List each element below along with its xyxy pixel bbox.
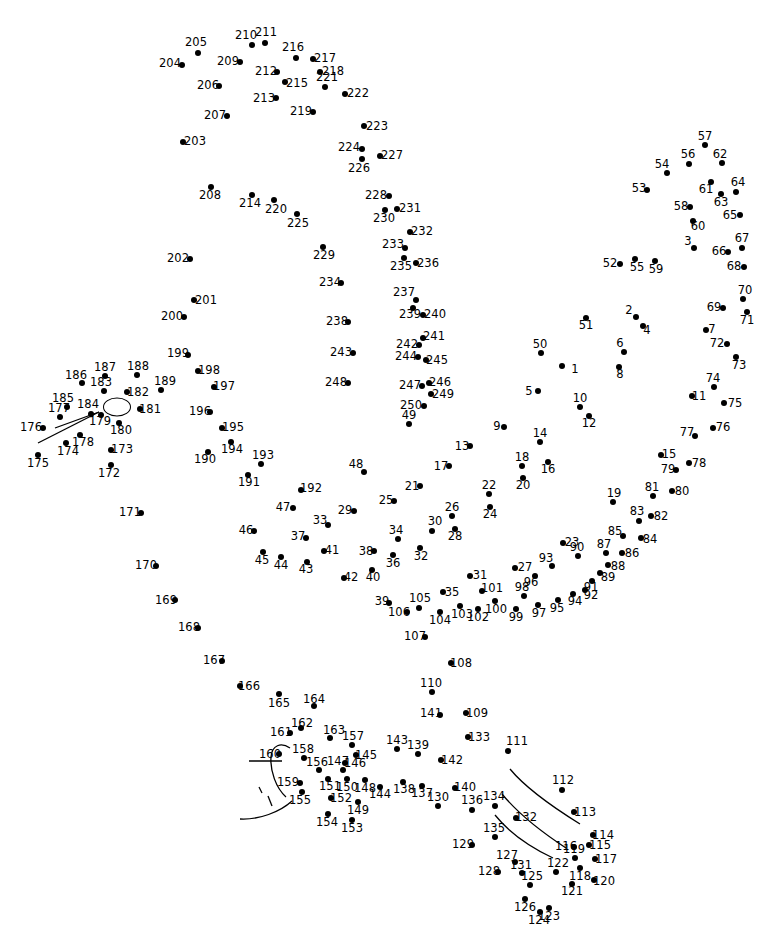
dot-number-label: 140: [454, 782, 476, 794]
dot-number-label: 87: [597, 539, 612, 551]
dot-number-label: 197: [213, 381, 235, 393]
dot-number-label: 155: [289, 795, 311, 807]
puzzle-dot: [322, 84, 328, 90]
dot-number-label: 175: [27, 458, 49, 470]
dot-number-label: 7: [708, 324, 715, 336]
dot-number-label: 95: [550, 603, 565, 615]
dot-number-label: 220: [265, 204, 287, 216]
dot-number-label: 106: [388, 607, 410, 619]
dot-number-label: 55: [630, 262, 645, 274]
dot-number-label: 2: [625, 305, 632, 317]
puzzle-dot: [249, 42, 255, 48]
dot-number-label: 212: [255, 66, 277, 78]
dot-number-label: 52: [603, 258, 618, 270]
dot-number-label: 57: [698, 131, 713, 143]
dot-number-label: 245: [426, 355, 448, 367]
dot-number-label: 198: [198, 365, 220, 377]
dot-number-label: 237: [393, 287, 415, 299]
dot-number-label: 1: [571, 364, 578, 376]
dot-number-label: 26: [445, 502, 460, 514]
dot-number-label: 89: [601, 572, 616, 584]
dot-number-label: 97: [532, 608, 547, 620]
dot-number-label: 115: [589, 840, 611, 852]
dot-number-label: 27: [518, 562, 533, 574]
puzzle-dot: [686, 161, 692, 167]
dot-number-label: 153: [341, 823, 363, 835]
puzzle-dot: [195, 50, 201, 56]
dot-number-label: 85: [608, 526, 623, 538]
dot-number-label: 168: [178, 622, 200, 634]
dot-number-label: 222: [347, 88, 369, 100]
dot-number-label: 143: [386, 735, 408, 747]
dot-number-label: 43: [299, 564, 314, 576]
dot-number-label: 47: [276, 502, 291, 514]
dot-number-label: 132: [515, 812, 537, 824]
dot-number-label: 170: [135, 560, 157, 572]
dot-number-label: 80: [675, 486, 690, 498]
dot-number-label: 181: [139, 404, 161, 416]
dot-number-label: 68: [727, 261, 742, 273]
dot-number-label: 21: [405, 481, 420, 493]
dot-number-label: 223: [366, 121, 388, 133]
dot-number-label: 24: [483, 509, 498, 521]
dot-number-label: 224: [338, 142, 360, 154]
puzzle-dot: [492, 803, 498, 809]
dot-number-label: 244: [395, 351, 417, 363]
dot-number-label: 121: [561, 886, 583, 898]
puzzle-dot: [429, 528, 435, 534]
dot-number-label: 136: [461, 795, 483, 807]
dot-number-label: 142: [441, 755, 463, 767]
dot-number-label: 111: [506, 736, 528, 748]
dot-number-label: 184: [77, 399, 99, 411]
dot-number-label: 205: [185, 37, 207, 49]
dot-number-label: 217: [314, 53, 336, 65]
dot-number-label: 164: [303, 694, 325, 706]
dot-number-label: 160: [259, 749, 281, 761]
dot-number-label: 152: [330, 793, 352, 805]
dot-number-label: 38: [359, 546, 374, 558]
dot-number-label: 36: [386, 558, 401, 570]
dot-number-label: 226: [348, 163, 370, 175]
dot-number-label: 235: [390, 261, 412, 273]
puzzle-dot: [290, 505, 296, 511]
dot-number-label: 247: [399, 380, 421, 392]
dot-number-label: 147: [327, 756, 349, 768]
dot-number-label: 135: [483, 823, 505, 835]
dot-number-label: 189: [154, 376, 176, 388]
dot-number-label: 66: [712, 246, 727, 258]
dot-number-label: 81: [645, 482, 660, 494]
dot-number-label: 6: [616, 338, 623, 350]
puzzle-dot: [293, 55, 299, 61]
dot-number-label: 149: [347, 805, 369, 817]
dot-number-label: 61: [699, 184, 714, 196]
dot-number-label: 240: [424, 309, 446, 321]
dot-number-label: 138: [393, 784, 415, 796]
guide-path: [259, 787, 262, 793]
dot-number-label: 185: [52, 393, 74, 405]
dot-number-label: 238: [326, 316, 348, 328]
dot-number-label: 94: [568, 596, 583, 608]
dot-number-label: 119: [563, 844, 585, 856]
dot-number-label: 19: [607, 488, 622, 500]
dot-number-label: 172: [98, 468, 120, 480]
dot-number-label: 183: [90, 377, 112, 389]
dot-number-label: 229: [313, 250, 335, 262]
dot-number-label: 231: [399, 203, 421, 215]
puzzle-dot: [469, 807, 475, 813]
dot-number-label: 163: [323, 725, 345, 737]
puzzle-dot: [633, 314, 639, 320]
dot-number-label: 33: [313, 515, 328, 527]
puzzle-dot: [505, 748, 511, 754]
dot-number-label: 69: [707, 302, 722, 314]
dot-number-label: 188: [127, 361, 149, 373]
dot-number-label: 182: [127, 387, 149, 399]
dot-number-label: 20: [516, 480, 531, 492]
dot-number-label: 46: [239, 525, 254, 537]
dot-number-label: 98: [515, 582, 530, 594]
dot-number-label: 154: [316, 817, 338, 829]
dot-number-label: 34: [389, 525, 404, 537]
dot-number-label: 5: [525, 386, 532, 398]
dot-number-label: 82: [654, 511, 669, 523]
dot-number-label: 50: [533, 339, 548, 351]
puzzle-dot: [733, 189, 739, 195]
